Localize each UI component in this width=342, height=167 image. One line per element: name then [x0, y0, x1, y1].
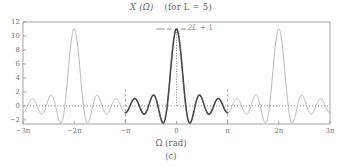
- x-tick-label: 2π: [264, 127, 294, 135]
- y-tick-label: 0: [2, 102, 20, 110]
- x-tick-label: 0: [162, 127, 192, 135]
- x-tick-label: −3π: [8, 127, 38, 135]
- y-tick-label: −2: [2, 116, 20, 124]
- y-tick-label: 12: [2, 18, 20, 26]
- figure-caption: (c): [0, 151, 342, 161]
- x-tick-label: −π: [110, 127, 140, 135]
- x-tick-label: π: [213, 127, 243, 135]
- x-tick-label: −2π: [59, 127, 89, 135]
- y-tick-label: 4: [2, 74, 20, 82]
- x-tick-label: 3π: [315, 127, 342, 135]
- x-axis-label: Ω (rad): [0, 138, 342, 148]
- y-tick-label: 2: [2, 88, 20, 96]
- y-tick-label: 10: [2, 32, 20, 40]
- peak-annotation-label: 2L + 1: [188, 23, 214, 32]
- y-tick-label: 6: [2, 60, 20, 68]
- y-tick-label: 8: [2, 46, 20, 54]
- figure-panel: X (Ω)(for L = 5) Ω (rad) (c) −2024681012…: [0, 0, 342, 167]
